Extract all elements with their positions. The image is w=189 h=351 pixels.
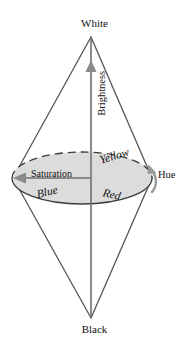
label-brightness: Brightness bbox=[97, 63, 108, 123]
hue-arrow-shaft bbox=[152, 171, 156, 192]
hue-arrow-head bbox=[148, 164, 157, 174]
label-white: White bbox=[0, 18, 189, 29]
label-black: Black bbox=[0, 324, 189, 335]
hsb-double-cone-diagram: White Black Brightness Saturation Hue Ye… bbox=[0, 0, 189, 351]
label-hue: Hue bbox=[158, 170, 176, 181]
brightness-arrow-head bbox=[86, 60, 97, 72]
label-saturation: Saturation bbox=[31, 169, 72, 179]
